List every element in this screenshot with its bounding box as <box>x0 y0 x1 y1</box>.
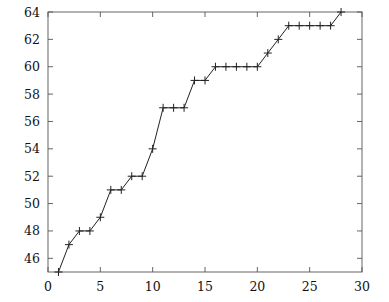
data-point-marker <box>96 213 104 221</box>
data-point-marker <box>117 186 125 194</box>
data-point-marker <box>54 268 62 276</box>
plot-frame <box>48 12 362 272</box>
data-point-marker <box>170 104 178 112</box>
y-tick-label: 54 <box>24 141 40 156</box>
x-tick-label: 15 <box>197 279 213 294</box>
data-point-marker <box>159 104 167 112</box>
data-point-marker <box>316 22 324 30</box>
data-point-marker <box>201 76 209 84</box>
data-point-marker <box>128 172 136 180</box>
y-tick-label: 58 <box>24 87 40 102</box>
y-tick-label: 46 <box>24 251 40 266</box>
data-line-series-1 <box>58 12 341 272</box>
y-tick-label: 64 <box>24 5 40 20</box>
data-point-marker <box>65 241 73 249</box>
data-point-marker <box>327 22 335 30</box>
y-axis-tick-labels: 46485052545658606264 <box>24 5 40 266</box>
y-tick-label: 52 <box>24 169 40 184</box>
data-series-markers <box>54 8 345 276</box>
data-point-marker <box>211 63 219 71</box>
data-point-marker <box>274 35 282 43</box>
data-series-lines <box>58 12 341 272</box>
data-point-marker <box>264 49 272 57</box>
data-point-marker <box>285 22 293 30</box>
axis-frame <box>48 12 362 272</box>
data-point-marker <box>191 76 199 84</box>
y-tick-label: 48 <box>24 223 40 238</box>
data-point-marker <box>138 172 146 180</box>
data-point-marker <box>222 63 230 71</box>
x-tick-label: 25 <box>302 279 318 294</box>
data-point-marker <box>149 145 157 153</box>
chart-container: 051015202530 46485052545658606264 <box>0 0 389 302</box>
x-axis-tick-labels: 051015202530 <box>44 279 370 294</box>
y-tick-label: 60 <box>24 59 40 74</box>
data-point-marker <box>75 227 83 235</box>
x-tick-label: 10 <box>145 279 161 294</box>
data-point-marker <box>295 22 303 30</box>
x-axis-ticks <box>48 12 362 272</box>
data-point-marker <box>253 63 261 71</box>
data-point-marker <box>180 104 188 112</box>
x-tick-label: 20 <box>249 279 265 294</box>
data-point-marker <box>107 186 115 194</box>
y-axis-ticks <box>48 12 362 258</box>
y-tick-label: 50 <box>24 196 40 211</box>
y-tick-label: 62 <box>24 32 40 47</box>
data-point-marker <box>86 227 94 235</box>
x-tick-label: 30 <box>354 279 370 294</box>
data-point-marker <box>306 22 314 30</box>
line-chart-plot: 051015202530 46485052545658606264 <box>0 0 389 302</box>
data-point-marker <box>232 63 240 71</box>
data-point-marker <box>337 8 345 16</box>
x-tick-label: 0 <box>44 279 52 294</box>
data-point-marker <box>243 63 251 71</box>
x-tick-label: 5 <box>96 279 104 294</box>
y-tick-label: 56 <box>24 114 40 129</box>
